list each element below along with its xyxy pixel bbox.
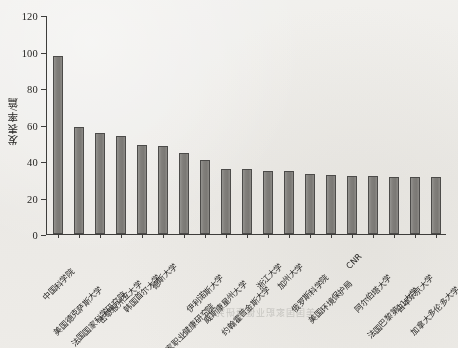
bar (305, 174, 315, 234)
x-axis-label: 美国国家职业健康研究院 (147, 302, 216, 348)
bar-slot (89, 16, 110, 234)
y-axis-tick-label: 40 (27, 157, 38, 168)
y-axis-tick (41, 162, 46, 163)
bar (74, 127, 84, 234)
bar-slot (110, 16, 131, 234)
x-axis-tick (268, 234, 269, 238)
bar-slot (131, 16, 152, 234)
bar-slot (320, 16, 341, 234)
x-axis-tick (142, 234, 143, 238)
x-axis-label: 阿尔伯塔大学 (353, 273, 393, 313)
bar (410, 177, 420, 234)
bar-slot (362, 16, 383, 234)
y-axis-tick (41, 126, 46, 127)
x-axis-label: 中国科学院 (41, 268, 76, 303)
bar-chart-figure: 发表率/篇 020406080100120 中国科学院美国德克萨斯大学法国国家科… (0, 0, 458, 348)
bar (263, 171, 273, 234)
bar (200, 160, 210, 234)
bar (53, 56, 63, 234)
bar (368, 176, 378, 234)
x-axis-tick (163, 234, 164, 238)
x-axis-tick (373, 234, 374, 238)
bar-slot (47, 16, 68, 234)
bar (326, 175, 336, 234)
x-axis-label: CNR (345, 252, 364, 271)
bar (137, 145, 147, 234)
x-axis-tick (436, 234, 437, 238)
plot-area: 020406080100120 (46, 16, 446, 235)
bar (242, 169, 252, 234)
x-axis-tick (226, 234, 227, 238)
x-axis-tick (79, 234, 80, 238)
y-axis-tick-label: 120 (22, 11, 38, 22)
bar (389, 177, 399, 234)
x-axis-tick (121, 234, 122, 238)
x-axis-tick (352, 234, 353, 238)
bar (347, 176, 357, 234)
x-axis-tick (310, 234, 311, 238)
bar (284, 171, 294, 234)
bar-slot (68, 16, 89, 234)
x-axis-tick (184, 234, 185, 238)
bar-slot (194, 16, 215, 234)
x-axis-tick (289, 234, 290, 238)
bar (95, 133, 105, 234)
x-axis-tick (247, 234, 248, 238)
y-axis-tick-label: 0 (33, 230, 38, 241)
bar (158, 146, 168, 234)
y-axis-tick-label: 60 (27, 120, 38, 131)
bar-slot (215, 16, 236, 234)
x-axis-tick (58, 234, 59, 238)
bar-slot (425, 16, 446, 234)
y-axis-tick (41, 53, 46, 54)
bar-slot (383, 16, 404, 234)
y-axis-tick-label: 100 (22, 47, 38, 58)
bar (221, 169, 231, 234)
x-axis-tick (100, 234, 101, 238)
bar (431, 177, 441, 234)
y-axis-tick (41, 235, 46, 236)
y-axis-tick (41, 16, 46, 17)
bar-slot (278, 16, 299, 234)
x-axis-tick (205, 234, 206, 238)
bar-slot (173, 16, 194, 234)
bar-series (47, 16, 446, 234)
bar-slot (236, 16, 257, 234)
x-axis-tick (331, 234, 332, 238)
x-axis-category-labels: 中国科学院美国德克萨斯大学法国国家科学研究院密歇根州立大学韩国首尔大学德斯大学美… (47, 239, 447, 344)
y-axis-tick (41, 199, 46, 200)
y-axis-tick (41, 89, 46, 90)
bar (179, 153, 189, 234)
bar-slot (152, 16, 173, 234)
bar-slot (299, 16, 320, 234)
bar-slot (404, 16, 425, 234)
x-axis-tick (415, 234, 416, 238)
bar-slot (257, 16, 278, 234)
y-axis-tick-label: 20 (27, 193, 38, 204)
y-axis-label: 发表率/篇 (6, 96, 20, 145)
y-axis-tick-label: 80 (27, 84, 38, 95)
bar (116, 136, 126, 234)
bar-slot (341, 16, 362, 234)
x-axis-tick (394, 234, 395, 238)
